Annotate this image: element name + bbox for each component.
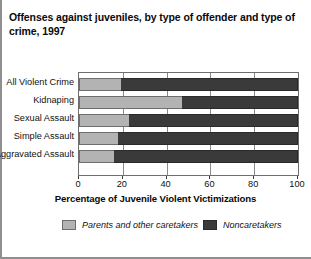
bar-row [79,150,298,163]
bar-segment-caretakers [79,96,182,109]
category-label: Sexual Assault [14,112,74,124]
legend-swatch-light [62,220,76,230]
legend-item: Noncaretakers [203,218,282,232]
x-tick-label: 100 [289,179,304,190]
x-axis-title: Percentage of Juvenile Violent Victimiza… [0,193,311,204]
bar-row [79,78,298,91]
x-tick-label: 20 [117,179,127,190]
bar-segment-caretakers [79,114,129,127]
legend-label: Parents and other caretakers [82,220,198,230]
chart-plot-area: All Violent CrimeKidnapingSexual Assault… [0,70,311,185]
bar-row [79,132,298,145]
bars-container [78,72,299,176]
bar-segment-caretakers [79,78,121,91]
bar-row [79,96,298,109]
bar-segment-noncaretakers [118,132,298,145]
category-label: Aggravated Assault [0,148,74,160]
category-label: All Violent Crime [6,76,74,88]
category-label: Simple Assault [14,130,74,142]
bar-segment-noncaretakers [121,78,298,91]
x-axis-ticks: 020406080100 [78,176,297,190]
legend-label: Noncaretakers [223,220,282,230]
x-tick-label: 60 [204,179,214,190]
legend-swatch-dark [203,220,217,230]
category-axis-labels: All Violent CrimeKidnapingSexual Assault… [0,70,74,174]
x-tick-label: 80 [248,179,258,190]
bar-segment-noncaretakers [182,96,298,109]
bar-segment-noncaretakers [114,150,298,163]
chart-title: Offenses against juveniles, by type of o… [9,11,299,38]
bar-segment-noncaretakers [129,114,298,127]
bar-segment-caretakers [79,132,118,145]
legend-item: Parents and other caretakers [62,218,198,232]
x-tick-label: 0 [75,179,80,190]
bar-segment-caretakers [79,150,114,163]
category-label: Kidnaping [33,94,74,106]
bar-row [79,114,298,127]
x-tick-label: 40 [160,179,170,190]
chart-legend: Parents and other caretakersNoncaretaker… [0,218,311,232]
